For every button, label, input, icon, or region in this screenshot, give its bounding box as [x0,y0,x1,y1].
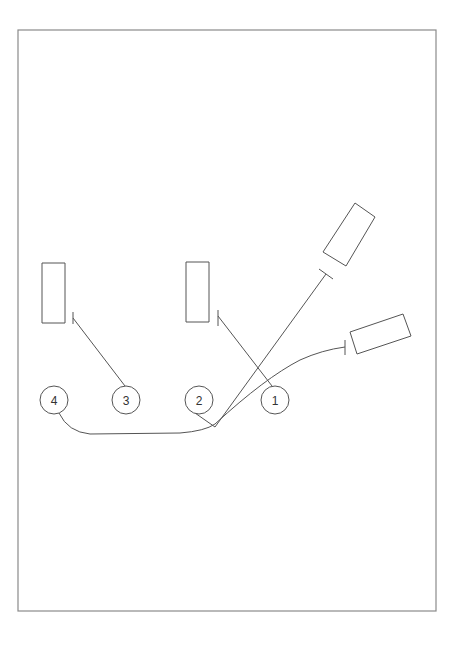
callout-1: 1 [261,386,289,414]
callout-3: 3 [112,386,140,414]
diagram-canvas: 1 2 3 4 [0,0,459,646]
diagram-svg: 1 2 3 4 [0,0,459,646]
callout-label-1: 1 [272,394,279,408]
callout-4: 4 [40,386,68,414]
callout-label-4: 4 [51,394,58,408]
callout-label-3: 3 [123,394,130,408]
drawing-frame [18,30,436,611]
callout-2: 2 [185,386,213,414]
callout-label-2: 2 [196,394,203,408]
